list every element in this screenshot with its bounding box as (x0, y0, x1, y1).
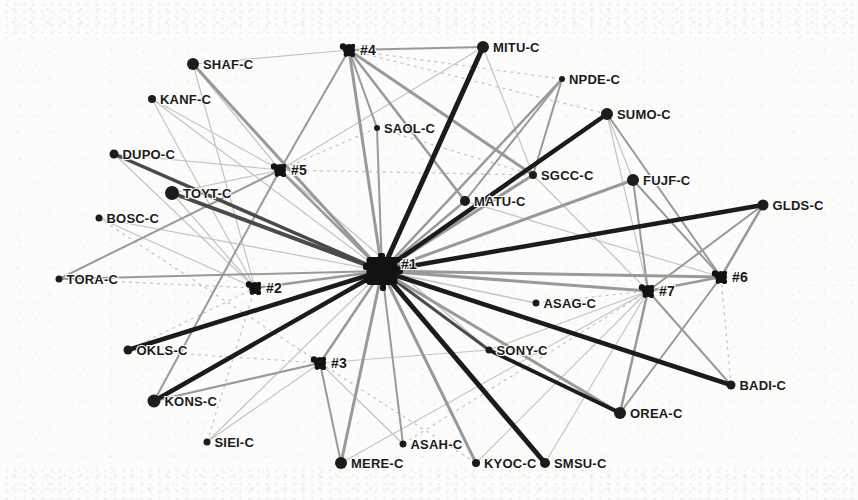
node-dot-SGCC-C (529, 171, 537, 179)
node-label-BOSC-C: BOSC-C (107, 211, 160, 226)
node-label-TOYT-C: TOYT-C (183, 186, 232, 201)
node-label-SHAF-C: SHAF-C (203, 57, 254, 72)
node-label-ASAH-C: ASAH-C (411, 437, 463, 452)
edge-GLDS-C-H6 (721, 205, 763, 277)
node-label-H3: #3 (331, 355, 347, 371)
edge-FUJF-C-H6 (633, 180, 721, 277)
node-label-ASAG-C: ASAG-C (544, 296, 597, 311)
edge-BADI-C-H6 (721, 277, 731, 385)
node-label-KYOC-C: KYOC-C (484, 456, 537, 471)
node-dot-OKLS-C (124, 346, 133, 355)
node-label-FUJF-C: FUJF-C (643, 173, 691, 188)
node-dot-KONS-C (148, 395, 161, 408)
node-dot-DUPO-C (110, 150, 119, 159)
edge-TORA-C-H5 (59, 170, 280, 279)
node-label-KONS-C: KONS-C (165, 394, 218, 409)
edge-SGCC-C-H5 (280, 170, 533, 175)
node-dot-SUMO-C (601, 108, 613, 120)
edge-TOYT-C-H1 (172, 193, 382, 271)
node-dot-ASAH-C (400, 441, 407, 448)
node-dot-TOYT-C (165, 186, 179, 200)
node-label-H1: #1 (401, 256, 417, 272)
edge-OKLS-C-H2 (128, 288, 255, 350)
node-dot-BADI-C (727, 381, 736, 390)
figure-canvas: SHAF-CKANF-CDUPO-CTOYT-CBOSC-CTORA-COKLS… (0, 0, 858, 500)
edge-MERE-C-H3 (320, 363, 341, 463)
node-label-DUPO-C: DUPO-C (123, 147, 176, 162)
node-label-SUMO-C: SUMO-C (617, 107, 671, 122)
node-label-SONY-C: SONY-C (497, 343, 548, 358)
node-label-H6: #6 (732, 269, 748, 285)
edge-H5-H4 (280, 50, 349, 170)
node-label-BADI-C: BADI-C (740, 378, 787, 393)
node-label-MERE-C: MERE-C (351, 456, 404, 471)
node-label-OREA-C: OREA-C (630, 406, 683, 421)
node-label-H7: #7 (659, 283, 675, 299)
node-label-SIEI-C: SIEI-C (215, 435, 255, 450)
edge-BOSC-C-H3 (99, 218, 320, 363)
edge-SAOL-C-H4 (349, 50, 377, 128)
node-label-SMSU-C: SMSU-C (554, 456, 607, 471)
node-dot-SIEI-C (204, 439, 211, 446)
edge-ASAH-C-H3 (320, 363, 403, 444)
node-dot-GLDS-C (758, 200, 769, 211)
node-dot-KYOC-C (472, 459, 480, 467)
node-label-MITU-C: MITU-C (493, 40, 540, 55)
node-dot-OREA-C (614, 407, 626, 419)
node-label-H2: #2 (266, 280, 282, 296)
node-dot-SONY-C (486, 347, 493, 354)
node-label-MATU-C: MATU-C (474, 194, 526, 209)
node-label-OKLS-C: OKLS-C (137, 343, 188, 358)
node-dot-SMSU-C (540, 458, 550, 468)
node-label-H5: #5 (291, 162, 307, 178)
node-dot-SHAF-C (187, 58, 199, 70)
edge-SONY-C-OREA-C (489, 350, 620, 413)
node-label-GLDS-C: GLDS-C (773, 198, 824, 213)
node-dot-SAOL-C (374, 125, 380, 131)
edge-SGCC-C-H4 (349, 50, 533, 175)
edge-SUMO-C-H7 (607, 114, 648, 291)
node-label-H4: #4 (360, 42, 376, 58)
node-label-NPDE-C: NPDE-C (569, 72, 620, 87)
node-dot-FUJF-C (627, 174, 639, 186)
node-dot-MITU-C (477, 41, 489, 53)
node-label-SAOL-C: SAOL-C (384, 121, 435, 136)
node-dot-ASAG-C (533, 300, 540, 307)
node-dot-NPDE-C (559, 76, 565, 82)
hub-glyph-H5 (271, 163, 286, 177)
node-dot-TORA-C (56, 276, 63, 283)
node-label-TORA-C: TORA-C (67, 272, 119, 287)
node-dot-BOSC-C (96, 215, 103, 222)
edge-H4-H1 (349, 50, 382, 271)
node-label-KANF-C: KANF-C (160, 92, 211, 107)
node-dot-KANF-C (148, 95, 156, 103)
node-dot-MATU-C (460, 196, 470, 206)
edge-SUMO-C-H6 (607, 114, 721, 277)
edge-BADI-C-H1 (382, 271, 731, 385)
node-label-SGCC-C: SGCC-C (541, 168, 594, 183)
edge-SIEI-C-H3 (207, 363, 320, 442)
network-graph: SHAF-CKANF-CDUPO-CTOYT-CBOSC-CTORA-COKLS… (0, 0, 858, 500)
node-dot-MERE-C (335, 457, 347, 469)
